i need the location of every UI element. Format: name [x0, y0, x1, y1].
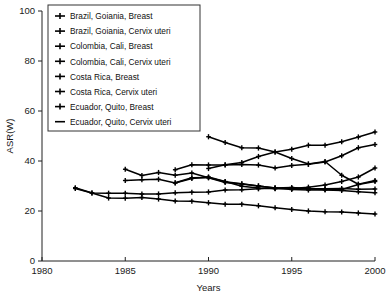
- x-axis-title: Years: [197, 282, 221, 293]
- legend-label: Costa Rica, Cervix uteri: [70, 87, 157, 97]
- x-tick-label: 1990: [198, 265, 219, 276]
- legend-label: Ecuador, Quito, Breast: [70, 102, 154, 112]
- x-tick-label: 1980: [31, 265, 52, 276]
- legend-label: Brazil, Goiania, Cervix uteri: [70, 26, 171, 36]
- legend-label: Ecuador, Quito, Cervix uteri: [70, 117, 172, 127]
- y-tick-label: 60: [24, 105, 35, 116]
- legend-item-0[interactable]: Brazil, Goiania, Breast: [55, 11, 153, 21]
- y-tick-label: 100: [19, 5, 35, 16]
- x-tick-label: 1995: [281, 265, 302, 276]
- legend-item-6[interactable]: Ecuador, Quito, Breast: [55, 102, 154, 112]
- legend-box: [48, 5, 200, 131]
- data-series-group: [73, 129, 377, 216]
- legend-label: Colombia, Cali, Cervix uteri: [70, 57, 171, 67]
- x-tick-label: 2000: [364, 265, 385, 276]
- chart-legend: Brazil, Goiania, BreastBrazil, Goiania, …: [48, 5, 200, 131]
- series-0: [173, 142, 377, 172]
- legend-item-7[interactable]: Ecuador, Quito, Cervix uteri: [55, 117, 172, 127]
- y-tick-label: 40: [24, 155, 35, 166]
- x-tick-label: 1985: [115, 265, 136, 276]
- legend-item-2[interactable]: Colombia, Cali, Breast: [55, 41, 153, 51]
- legend-item-1[interactable]: Brazil, Goiania, Cervix uteri: [55, 26, 171, 36]
- y-tick-label: 20: [24, 205, 35, 216]
- chart-figure: 02040608010019801985199019952000 Brazil,…: [0, 0, 391, 297]
- line-chart: 02040608010019801985199019952000 Brazil,…: [0, 0, 391, 297]
- series-3: [123, 167, 377, 196]
- y-tick-label: 80: [24, 55, 35, 66]
- legend-label: Colombia, Cali, Breast: [70, 41, 153, 51]
- y-axis-title: ASR(W): [4, 119, 15, 154]
- series-2: [123, 165, 377, 191]
- legend-label: Costa Rica, Breast: [70, 72, 140, 82]
- legend-label: Brazil, Goiania, Breast: [70, 11, 153, 21]
- legend-item-3[interactable]: Colombia, Cali, Cervix uteri: [55, 57, 171, 67]
- legend-item-5[interactable]: Costa Rica, Cervix uteri: [55, 87, 157, 97]
